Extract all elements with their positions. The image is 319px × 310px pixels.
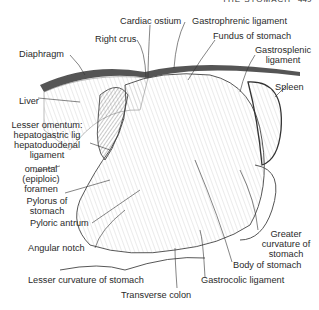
label-omental-foramen: omental (epiploic) foramen — [16, 164, 66, 194]
label-gastrocolic-ligament: Gastrocolic ligament — [201, 275, 284, 285]
label-pyloric-antrum: Pyloric antrum — [30, 218, 89, 228]
label-spleen: Spleen — [275, 82, 304, 92]
label-gastrosplenic: Gastrosplenic ligament — [248, 45, 318, 65]
label-body-of-stomach: Body of stomach — [233, 260, 301, 270]
label-transverse-colon: Transverse colon — [121, 290, 191, 300]
label-right-crus: Right crus — [95, 34, 136, 44]
label-lesser-curvature: Lesser curvature of stomach — [28, 275, 144, 285]
label-fundus: Fundus of stomach — [213, 31, 291, 41]
label-liver: Liver — [19, 96, 39, 106]
label-gastrophrenic-ligament: Gastrophrenic ligament — [192, 16, 287, 26]
label-angular-notch: Angular notch — [28, 243, 85, 253]
label-diaphragm: Diaphragm — [19, 49, 64, 59]
label-cardiac-ostium: Cardiac ostium — [120, 16, 181, 26]
label-pylorus: Pylorus of stomach — [22, 196, 72, 216]
label-greater-curvature: Greater curvature of stomach — [253, 229, 319, 259]
label-lesser-omentum: Lesser omentum: hepatogastric lig hepato… — [6, 120, 88, 160]
